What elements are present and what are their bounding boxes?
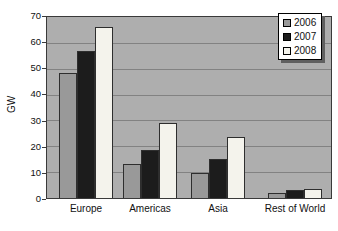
y-tick-label: 10 xyxy=(0,168,41,178)
bar-2006 xyxy=(59,73,77,198)
legend: 200620072008 xyxy=(278,13,322,60)
x-category-label: Asia xyxy=(208,203,227,214)
bar-chart: GW 200620072008 010203040506070EuropeAme… xyxy=(0,0,338,231)
bar-group-americas xyxy=(123,123,177,198)
bar-group-asia xyxy=(191,137,245,198)
y-tick-label: 50 xyxy=(0,63,41,73)
legend-swatch-icon xyxy=(283,19,291,27)
bar-2006 xyxy=(268,193,286,198)
y-tick-label: 0 xyxy=(0,194,41,204)
y-tick-mark xyxy=(42,121,46,122)
bar-2007 xyxy=(141,150,159,198)
y-tick-label: 20 xyxy=(0,142,41,152)
legend-swatch-icon xyxy=(283,33,291,41)
y-tick-mark xyxy=(42,147,46,148)
y-tick-label: 40 xyxy=(0,89,41,99)
legend-label: 2008 xyxy=(294,45,316,56)
y-tick-mark xyxy=(42,16,46,17)
legend-item-2008: 2008 xyxy=(283,45,316,56)
bar-group-europe xyxy=(59,27,113,198)
bar-2008 xyxy=(304,189,322,198)
y-tick-mark xyxy=(42,199,46,200)
x-category-label: Americas xyxy=(129,203,171,214)
y-tick-mark xyxy=(42,173,46,174)
bar-2007 xyxy=(209,159,227,198)
bar-2007 xyxy=(77,51,95,198)
legend-item-2007: 2007 xyxy=(283,31,316,42)
legend-label: 2007 xyxy=(294,31,316,42)
bar-2008 xyxy=(227,137,245,198)
y-tick-mark xyxy=(42,94,46,95)
y-tick-label: 70 xyxy=(0,11,41,21)
y-tick-label: 30 xyxy=(0,116,41,126)
x-category-label: Europe xyxy=(70,203,102,214)
bar-2008 xyxy=(95,27,113,198)
y-tick-label: 60 xyxy=(0,37,41,47)
bar-2006 xyxy=(123,164,141,198)
y-tick-mark xyxy=(42,42,46,43)
bar-2008 xyxy=(159,123,177,198)
x-category-label: Rest of World xyxy=(265,203,325,214)
y-tick-mark xyxy=(42,68,46,69)
bar-2006 xyxy=(191,173,209,198)
bar-group-rest-of-world xyxy=(268,189,322,198)
bar-2007 xyxy=(286,190,304,198)
legend-label: 2006 xyxy=(294,17,316,28)
legend-swatch-icon xyxy=(283,47,291,55)
legend-item-2006: 2006 xyxy=(283,17,316,28)
